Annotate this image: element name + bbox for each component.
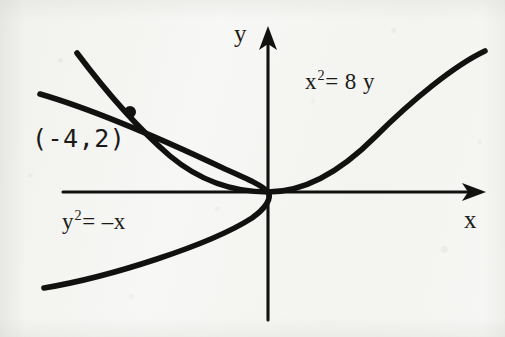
equation-exponent: 2 bbox=[74, 207, 82, 223]
equation-rest: = 8 y bbox=[325, 69, 375, 94]
y-axis bbox=[259, 26, 277, 320]
equation-base: y bbox=[62, 209, 74, 234]
plot-canvas bbox=[0, 0, 505, 337]
equation-rest: = –x bbox=[82, 209, 126, 234]
equation-exponent: 2 bbox=[317, 67, 325, 83]
equation-label-upward-parabola: x2= 8 y bbox=[305, 70, 375, 93]
y-axis-label: y bbox=[234, 21, 247, 46]
intersection-point-label: (-4,2) bbox=[32, 126, 125, 151]
x-axis-label: x bbox=[464, 207, 477, 232]
equation-label-leftward-parabola: y2= –x bbox=[62, 210, 126, 233]
parabola-figure: y x x2= 8 y y2= –x (-4,2) bbox=[0, 0, 505, 337]
curve-x-squared-equals-8y bbox=[77, 51, 485, 192]
intersection-point-dot bbox=[124, 106, 136, 118]
equation-base: x bbox=[305, 69, 317, 94]
